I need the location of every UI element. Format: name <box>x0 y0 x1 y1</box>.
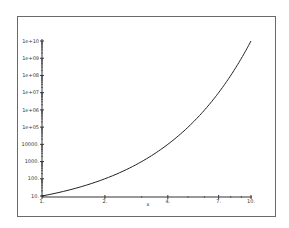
chart-plot-area: 10.100.1000.10000.1e+051e+061e+071e+081e… <box>0 0 289 228</box>
x-tick-label: 1. <box>40 198 45 204</box>
y-tick-label: 100. <box>28 175 40 181</box>
y-tick-label: 1e+09 <box>22 55 39 61</box>
x-tick-label: 7. <box>216 198 221 204</box>
y-tick-label: 1e+07 <box>22 89 39 95</box>
x-axis-label: x <box>147 201 150 207</box>
y-tick-label: 1e+08 <box>22 72 39 78</box>
x-tick-label: 4. <box>165 198 170 204</box>
y-tick-label: 10000. <box>22 141 40 147</box>
y-tick-label: 10. <box>31 193 39 199</box>
x-tick-label: 2. <box>103 198 108 204</box>
y-tick-label: 1e+06 <box>22 107 39 113</box>
data-line <box>42 41 251 196</box>
x-tick-label: 10. <box>247 198 255 204</box>
y-tick-label: 1e+10 <box>22 38 39 44</box>
y-tick-label: 1000. <box>25 158 40 164</box>
y-tick-label: 1e+05 <box>22 124 39 130</box>
